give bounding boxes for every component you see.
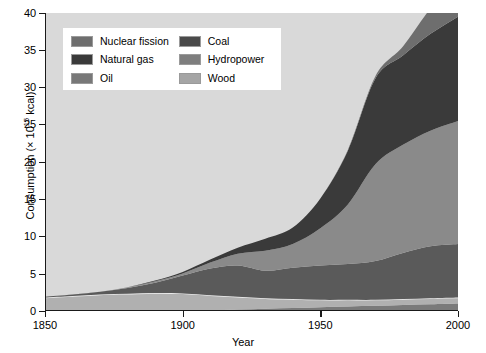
x-tick-label: 1900 xyxy=(153,320,213,331)
y-tick-mark xyxy=(39,13,45,14)
y-tick-label: 40 xyxy=(2,8,36,19)
x-tick-label: 2000 xyxy=(428,320,486,331)
y-tick-mark xyxy=(39,162,45,163)
legend-label-hydropower: Hydropower xyxy=(208,54,265,65)
legend-swatch-coal xyxy=(179,36,201,47)
legend-label-oil: Oil xyxy=(100,73,113,84)
x-axis-title: Year xyxy=(0,337,486,348)
y-tick-mark xyxy=(39,87,45,88)
legend-swatch-natural-gas xyxy=(71,54,93,65)
legend-item-natural-gas: Natural gas xyxy=(71,52,179,68)
y-tick-mark xyxy=(39,274,45,275)
legend-label-natural-gas: Natural gas xyxy=(100,54,154,65)
legend-item-hydropower: Hydropower xyxy=(179,52,273,68)
legend-swatch-hydropower xyxy=(179,54,201,65)
legend-column-right: Coal Hydropower Wood xyxy=(179,33,273,86)
x-tick-label: 1850 xyxy=(15,320,75,331)
y-axis-title-suffix: kcal) xyxy=(24,92,36,118)
y-tick-mark xyxy=(39,199,45,200)
legend-item-coal: Coal xyxy=(179,33,273,49)
chart-figure: 40 35 30 25 20 15 10 5 0 1850 1900 1950 … xyxy=(0,0,486,353)
legend-label-nuclear-fission: Nuclear fission xyxy=(100,36,169,47)
x-tick-mark xyxy=(45,311,46,317)
legend-column-left: Nuclear fission Natural gas Oil xyxy=(71,33,179,86)
y-axis-title-exponent: 15 xyxy=(22,118,31,126)
y-tick-mark xyxy=(39,236,45,237)
x-tick-mark xyxy=(183,311,184,317)
legend-label-coal: Coal xyxy=(208,36,230,47)
legend-swatch-wood xyxy=(179,73,201,84)
legend-item-nuclear-fission: Nuclear fission xyxy=(71,33,179,49)
x-tick-mark xyxy=(320,311,321,317)
x-tick-mark xyxy=(458,311,459,317)
legend-swatch-oil xyxy=(71,73,93,84)
y-axis-title-prefix: Consumption (× 10 xyxy=(24,126,36,219)
legend-item-wood: Wood xyxy=(179,70,273,86)
y-tick-label: 35 xyxy=(2,45,36,56)
legend-label-wood: Wood xyxy=(208,73,235,84)
legend-item-oil: Oil xyxy=(71,70,179,86)
legend: Nuclear fission Natural gas Oil Coal Hyd… xyxy=(63,28,281,90)
y-tick-label: 5 xyxy=(2,269,36,280)
y-axis-title: Consumption (× 1015 kcal) xyxy=(25,56,36,256)
y-tick-mark xyxy=(39,50,45,51)
x-tick-label: 1950 xyxy=(290,320,350,331)
y-tick-label: 0 xyxy=(2,306,36,317)
y-tick-mark xyxy=(39,124,45,125)
legend-swatch-nuclear-fission xyxy=(71,36,93,47)
